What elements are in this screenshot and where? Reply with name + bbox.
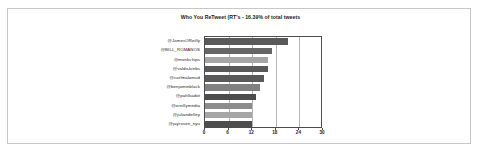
y-axis-label: @JamesOReilly [168, 38, 200, 43]
bar [205, 48, 272, 54]
bar [205, 38, 288, 44]
bar [205, 103, 252, 109]
y-axis-label: @carlmalamud [170, 75, 200, 80]
bar [205, 57, 268, 63]
x-axis-tick-label: 18 [272, 130, 277, 135]
y-axis-label: @valdiskrebs [173, 66, 200, 71]
x-axis-tick-labels: 0612182430 [204, 128, 322, 140]
x-axis-tick-label: 12 [249, 130, 254, 135]
plot-area [204, 36, 322, 128]
bar [205, 75, 264, 81]
bar [205, 84, 260, 90]
screenshot-root: Who You ReTweet (RT's - 16.39% of total … [0, 0, 481, 153]
y-axis-category-labels: @JamesOReilly@BILL_ROMANOS@monkchips@val… [104, 36, 202, 128]
y-axis-label: @oreillymedia [171, 103, 200, 108]
y-axis-label: @monkchips [174, 57, 200, 62]
x-axis-tick-label: 24 [296, 130, 301, 135]
bar [205, 94, 256, 100]
x-axis-tick-label: 0 [203, 130, 206, 135]
y-axis-label: @benjaminblack [166, 84, 200, 89]
bar [205, 66, 268, 72]
x-axis-tick-label: 30 [319, 130, 324, 135]
y-axis-label: @BILL_ROMANOS [161, 47, 200, 52]
bars-layer [205, 37, 321, 127]
x-axis-tick-label: 6 [226, 130, 229, 135]
bar [205, 121, 252, 127]
bar [205, 112, 252, 118]
y-axis-label: @jayrosen_nyu [169, 121, 200, 126]
chart-title: Who You ReTweet (RT's - 16.39% of total … [0, 14, 481, 20]
y-axis-label: @juliandelley [173, 112, 200, 117]
y-axis-label: @pahlkadot [176, 93, 200, 98]
